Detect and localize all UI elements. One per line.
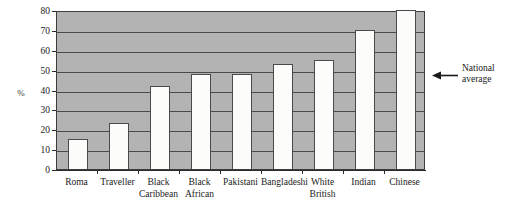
x-tick-label: Chinese [384,177,425,189]
bar [314,60,334,169]
plot-area [56,11,425,170]
y-tick-mark [52,130,56,131]
x-tick-label: WhiteBritish [302,177,343,200]
x-tick-mark [384,170,385,174]
y-tick-label: 30 [28,105,50,115]
x-tick-mark [343,170,344,174]
x-tick-mark [138,170,139,174]
bar [150,86,170,169]
x-tick-mark [179,170,180,174]
x-tick-label: Roma [56,177,97,189]
national-average-label: Nationalaverage [462,63,505,86]
y-tick-label: 40 [28,86,50,96]
x-axis-category-labels: RomaTravellerBlackCaribbeanBlackAfricanP… [0,177,505,211]
y-tick-label: 60 [28,46,50,56]
bar [68,139,88,169]
bar-chart: % 01020304050607080 RomaTravellerBlackCa… [0,0,505,212]
y-tick-label: 20 [28,125,50,135]
y-tick-label: 0 [28,165,50,175]
bar [396,10,416,169]
bar [273,64,293,169]
y-tick-mark [52,31,56,32]
bar [232,74,252,169]
x-tick-mark [302,170,303,174]
y-tick-mark [52,110,56,111]
x-axis-line [56,170,426,171]
x-tick-mark [261,170,262,174]
y-tick-label: 80 [28,6,50,16]
x-tick-label: BlackAfrican [179,177,220,200]
x-tick-label: Pakistani [220,177,261,189]
y-tick-mark [52,170,56,171]
y-tick-mark [52,11,56,12]
y-tick-mark [52,51,56,52]
bar [191,74,211,169]
bar [109,123,129,169]
y-tick-label: 70 [28,26,50,36]
bar [355,30,375,169]
x-tick-label: BlackCaribbean [138,177,179,200]
y-tick-mark [52,71,56,72]
x-tick-mark [97,170,98,174]
x-tick-label: Traveller [97,177,138,189]
x-tick-label: Indian [343,177,384,189]
y-tick-mark [52,150,56,151]
bars [57,12,424,169]
y-tick-mark [52,91,56,92]
y-tick-label: 10 [28,145,50,155]
left-arrow-icon [432,71,458,80]
y-tick-label: 50 [28,66,50,76]
x-tick-mark [220,170,221,174]
x-tick-label: Bangladeshi [261,177,302,189]
